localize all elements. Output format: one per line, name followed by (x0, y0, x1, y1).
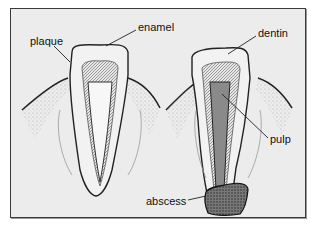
abscess-leader (188, 196, 206, 200)
right-tooth (165, 48, 292, 216)
plaque-leader (54, 46, 70, 62)
label-dentin: dentin (258, 28, 288, 39)
left-tooth (20, 45, 160, 196)
label-enamel: enamel (138, 22, 174, 33)
label-plaque: plaque (30, 36, 63, 47)
label-abscess: abscess (146, 196, 186, 207)
label-pulp: pulp (270, 134, 291, 145)
enamel-leader (106, 30, 136, 46)
